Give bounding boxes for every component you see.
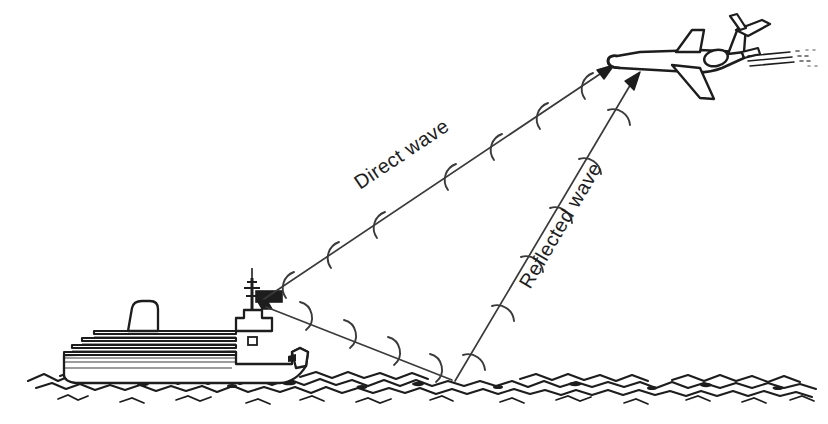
aircraft-carrier [64, 268, 308, 383]
propagation-diagram: Direct wave Reflected wave [0, 0, 828, 424]
reflected-wave-arrowhead [625, 72, 640, 90]
bow-marking [288, 354, 296, 362]
sea-ripple-marks [58, 395, 814, 404]
figure-root: Direct wave Reflected wave [0, 0, 828, 424]
direct-wave-label: Direct wave [350, 114, 453, 193]
direct-wave-ray [264, 65, 614, 299]
horizontal-stabilizer-far [730, 14, 746, 30]
far-wing [676, 30, 704, 52]
island-window [248, 337, 257, 345]
reflected-downleg-wavefronts [300, 302, 442, 382]
reflected-wave-label: Reflected wave [515, 158, 606, 292]
island-superstructure [236, 310, 272, 331]
funnel [128, 301, 158, 331]
jet-airliner [608, 14, 820, 99]
